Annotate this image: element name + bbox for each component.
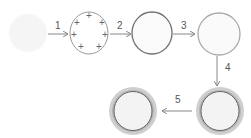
node-state-3	[132, 12, 172, 54]
node-state-1	[9, 14, 47, 52]
node-state-2: + + + + + + +	[70, 10, 108, 54]
node-state-5	[196, 87, 244, 135]
arrow-step-4: 4	[217, 56, 231, 86]
step-label-1: 1	[55, 20, 61, 31]
process-diagram: 1 + + + + + + + 2 3 4	[0, 0, 251, 138]
step-label-3: 3	[181, 20, 187, 31]
step-label-5: 5	[175, 94, 181, 105]
arrow-step-1: 1	[48, 20, 68, 34]
plus-icon: +	[78, 41, 84, 52]
plus-icon: +	[102, 29, 108, 40]
step-label-2: 2	[117, 20, 123, 31]
plus-icon: +	[71, 29, 77, 40]
arrow-step-2: 2	[110, 20, 131, 34]
arrow-step-5: 5	[162, 94, 192, 111]
node-state-6	[109, 87, 157, 135]
step-label-4: 4	[225, 62, 231, 73]
plus-icon: +	[74, 17, 80, 28]
plus-icon: +	[86, 10, 92, 21]
plus-icon: +	[99, 17, 105, 28]
arrow-step-3: 3	[173, 20, 195, 34]
node-state-4	[198, 13, 240, 55]
plus-icon: +	[96, 41, 102, 52]
